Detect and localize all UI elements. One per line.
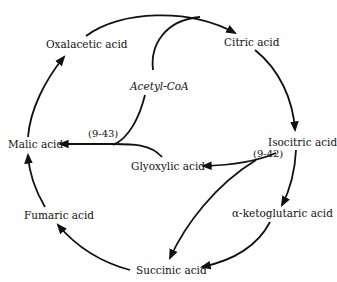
- edge-isocitric-to-ketoglutaric: [282, 150, 296, 205]
- edge-oxalacetic-to-citric: [86, 15, 235, 36]
- edge-acetylcoa-to-citric: [153, 17, 200, 70]
- edge-citric-to-isocitric: [255, 50, 295, 130]
- edge-glyoxylic-to-malic: [60, 144, 162, 157]
- edge-malic-to-oxalacetic: [28, 57, 64, 137]
- reaction-ref-9-43: (9-43): [88, 128, 118, 140]
- node-oxalacetic-acid: Oxalacetic acid: [46, 38, 128, 50]
- node-fumaric-acid: Fumaric acid: [24, 209, 94, 221]
- edge-ketoglutaric-to-succinic: [202, 222, 270, 267]
- edge-fumaric-to-malic: [28, 155, 45, 207]
- node-acetyl-coa: Acetyl-CoA: [130, 80, 189, 92]
- node-succinic-acid: Succinic acid: [136, 264, 207, 276]
- reaction-ref-9-42: (9-42): [253, 148, 283, 160]
- edge-succinic-to-fumaric: [58, 225, 130, 270]
- node-isocitric-acid: Isocitric acid: [268, 136, 337, 148]
- node-malic-acid: Malic acid: [8, 138, 63, 150]
- node-citric-acid: Citric acid: [224, 36, 279, 48]
- node-alpha-ketoglutaric-acid: α-ketoglutaric acid: [232, 207, 333, 219]
- node-glyoxylic-acid: Glyoxylic acid: [131, 160, 205, 172]
